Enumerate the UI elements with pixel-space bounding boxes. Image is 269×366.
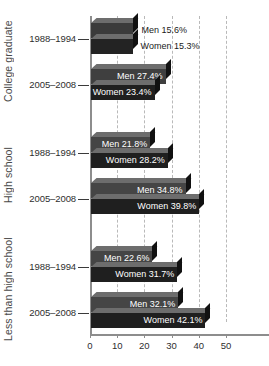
period-tick	[78, 39, 89, 40]
period-label-less-than-high-school-2005-2008: 2005–2008	[14, 307, 76, 318]
bar-side-face	[150, 127, 155, 147]
period-label-less-than-high-school-1988-1994: 1988–1994	[14, 261, 76, 272]
x-axis-tick-label: 10	[112, 340, 123, 351]
bar-side-face	[205, 303, 210, 323]
bar-side-face	[133, 29, 138, 49]
bar-value-label: Women 28.2%	[106, 154, 165, 167]
bar-chart: College graduate High school Less than h…	[0, 0, 269, 366]
bar-side-face	[177, 257, 182, 277]
bar-side-face	[166, 59, 171, 79]
bar-value-label: Women 23.4%	[93, 86, 152, 99]
bar-value-label: Women 15.3%	[141, 40, 200, 53]
period-tick	[78, 85, 89, 86]
bar-value-label: Men 15.6%	[141, 24, 187, 37]
period-label-high-school-1988-1994: 1988–1994	[14, 147, 76, 158]
bar-side-face	[199, 189, 204, 209]
period-tick	[78, 313, 89, 314]
period-tick	[78, 153, 89, 154]
category-label-high-school: High school	[2, 137, 14, 213]
bar-women: Women 39.8%	[91, 199, 199, 214]
x-axis-tick-label: 50	[221, 340, 232, 351]
x-axis-tick-label: 40	[193, 340, 204, 351]
bar-side-face	[178, 287, 183, 307]
x-axis-tick	[144, 334, 145, 338]
bar-side-face	[155, 75, 160, 95]
x-axis-tick-label: 30	[166, 340, 177, 351]
x-axis-tick-label: 0	[87, 340, 92, 351]
bar-value-label: Women 31.7%	[115, 268, 174, 281]
x-axis-tick	[90, 334, 91, 338]
bar-women: Women 15.3%	[91, 39, 133, 54]
bar-side-face	[152, 241, 157, 261]
bar-value-label: Women 39.8%	[137, 200, 196, 213]
period-label-college-graduate-1988-1994: 1988–1994	[14, 33, 76, 44]
plot-area: 01020304050Men 15.6%Women 15.3%Men 27.4%…	[90, 16, 269, 336]
y-axis-line	[90, 16, 92, 336]
bar-value-label: Women 42.1%	[144, 314, 203, 327]
bar-front-face	[91, 39, 133, 54]
bar-women: Women 23.4%	[91, 85, 155, 100]
x-axis-tick	[117, 334, 118, 338]
bar-women: Women 28.2%	[91, 153, 168, 168]
category-label-college-graduate: College graduate	[2, 23, 14, 99]
bar-women: Women 42.1%	[91, 313, 205, 328]
period-label-college-graduate-2005-2008: 2005–2008	[14, 79, 76, 90]
bar-side-face	[186, 173, 191, 193]
category-label-less-than-high-school: Less than high school	[2, 251, 14, 327]
gridline	[199, 16, 200, 322]
gridline	[226, 16, 227, 322]
x-axis-tick	[226, 334, 227, 338]
bar-women: Women 31.7%	[91, 267, 177, 282]
x-axis-tick	[172, 334, 173, 338]
period-tick	[78, 199, 89, 200]
x-axis-tick	[199, 334, 200, 338]
period-tick	[78, 267, 89, 268]
x-axis-tick-label: 20	[139, 340, 150, 351]
period-label-high-school-2005-2008: 2005–2008	[14, 193, 76, 204]
